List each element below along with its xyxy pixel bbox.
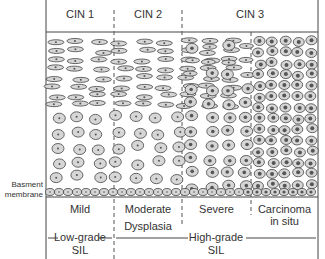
basement-label-2: membrane bbox=[0, 190, 43, 199]
low-grade-label: Low-grade bbox=[46, 231, 114, 243]
header-cin3: CIN 3 bbox=[182, 8, 318, 20]
dysplasia-label: Dysplasia bbox=[114, 220, 182, 232]
cells-group bbox=[44, 36, 318, 196]
grade-severe: Severe bbox=[182, 203, 251, 215]
basement-label-1: Basment bbox=[0, 180, 43, 189]
low-sil-label: SIL bbox=[46, 244, 114, 256]
header-cin1: CIN 1 bbox=[46, 8, 114, 20]
grade-cis-1: Carcinoma bbox=[251, 203, 318, 215]
grade-cis-2: in situ bbox=[251, 215, 318, 227]
header-cin2: CIN 2 bbox=[114, 8, 182, 20]
high-sil-label: SIL bbox=[182, 244, 250, 256]
grade-mild: Mild bbox=[46, 203, 114, 215]
grade-moderate: Moderate bbox=[114, 203, 182, 215]
high-grade-label: High-grade bbox=[182, 231, 250, 243]
